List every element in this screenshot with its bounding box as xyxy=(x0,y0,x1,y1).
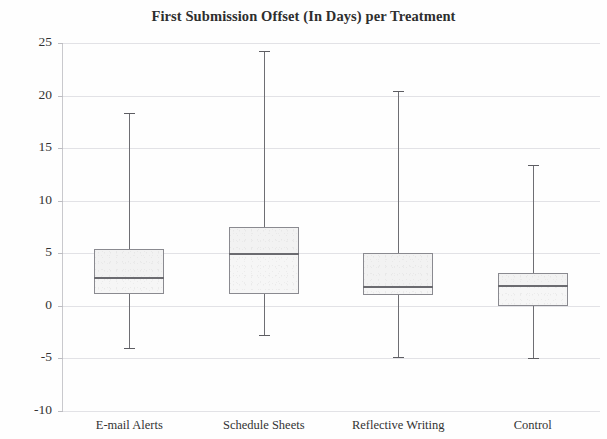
box-plot-item xyxy=(62,43,600,411)
y-tick-label: 5 xyxy=(8,244,52,260)
y-tick-label: 15 xyxy=(8,139,52,155)
y-tick-label: 20 xyxy=(8,87,52,103)
y-tick-label: -10 xyxy=(8,402,52,418)
box-texture xyxy=(499,274,567,305)
x-tick-label: Reflective Writing xyxy=(328,418,468,433)
box-plot-figure: First Submission Offset (In Days) per Tr… xyxy=(0,0,607,439)
lower-whisker-cap xyxy=(528,358,539,359)
plot-area xyxy=(62,43,600,411)
upper-whisker xyxy=(533,165,534,273)
x-tick-label: Control xyxy=(463,418,603,433)
lower-whisker xyxy=(533,306,534,359)
x-tick-label: Schedule Sheets xyxy=(194,418,334,433)
y-tick-label: 10 xyxy=(8,192,52,208)
x-tick-label: E-mail Alerts xyxy=(59,418,199,433)
median-line xyxy=(498,285,568,287)
y-tick-label: 25 xyxy=(8,34,52,50)
y-tick-label: -5 xyxy=(8,349,52,365)
upper-whisker-cap xyxy=(528,165,539,166)
gridline xyxy=(62,411,600,412)
box-iqr xyxy=(498,273,568,306)
y-tick-mark xyxy=(58,411,63,412)
y-tick-label: 0 xyxy=(8,297,52,313)
